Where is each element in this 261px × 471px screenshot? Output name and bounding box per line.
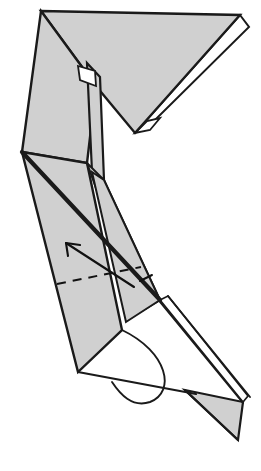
origami-diagram-root	[0, 0, 261, 471]
origami-diagram-canvas	[0, 0, 261, 471]
